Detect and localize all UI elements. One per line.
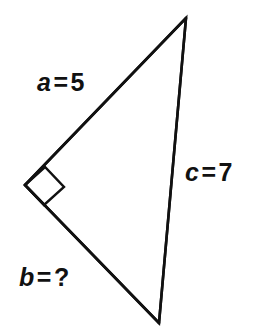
side-b-relation: = [37,263,52,291]
side-c-variable: c [185,158,199,186]
side-a-relation: = [53,68,68,96]
triangle-diagram: a=5 c=7 b=? [0,0,255,329]
side-b-variable: b [19,263,35,291]
side-b-value: ? [54,263,70,291]
side-a-label: a=5 [37,70,85,95]
side-a-value: 5 [71,68,85,96]
side-a-variable: a [37,68,51,96]
side-c-value: 7 [219,158,233,186]
side-b-label: b=? [19,265,70,290]
side-c-relation: = [201,158,216,186]
side-c-label: c=7 [185,160,233,185]
